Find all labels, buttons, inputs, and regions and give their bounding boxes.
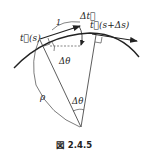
label-t-s: t⃗(s)	[20, 33, 41, 43]
radius-line-1	[40, 40, 81, 127]
figure-2-4-5: t⃗(s) 1 Δt⃗ t⃗(s+Δs) Δθ ρ Δθ 図 2.4.5	[0, 0, 147, 152]
curvature-diagram: t⃗(s) 1 Δt⃗ t⃗(s+Δs) Δθ ρ Δθ 図 2.4.5	[0, 0, 147, 152]
label-t-s-ds: t⃗(s+Δs)	[90, 20, 130, 30]
rho-arc	[34, 40, 80, 127]
figure-caption: 図 2.4.5	[56, 140, 92, 150]
label-delta-theta-center: Δθ	[71, 96, 83, 106]
radius-line-2	[81, 35, 96, 127]
tangent-arrow-s	[40, 26, 80, 39]
right-angle-mark-2	[95, 37, 102, 43]
delta-theta-arc-top	[52, 42, 55, 51]
label-one: 1	[56, 18, 61, 27]
label-delta-theta-top: Δθ	[58, 56, 70, 66]
label-rho: ρ	[39, 92, 46, 102]
tangent-arrow-s-ds	[92, 34, 137, 41]
delta-theta-arc-center	[73, 109, 84, 111]
delta-t-arrow	[79, 26, 82, 45]
